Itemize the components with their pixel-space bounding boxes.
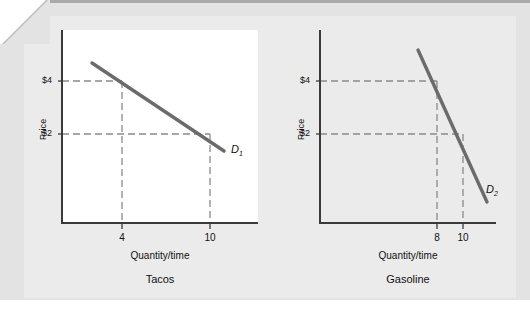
demand-curve-d1 bbox=[92, 63, 224, 151]
y-tick-label-4-right: $4 bbox=[300, 75, 310, 85]
x-tick-label-10-left: 10 bbox=[198, 232, 222, 243]
curve-label-d1-letter: D bbox=[231, 143, 239, 155]
plot-vector-layer bbox=[0, 0, 530, 318]
panel-caption-tacos: Tacos bbox=[100, 273, 220, 285]
x-tick-label-4-left: 4 bbox=[110, 232, 134, 243]
demand-curve-d2 bbox=[418, 50, 487, 202]
curve-label-d2-letter: D bbox=[486, 183, 494, 195]
y-axis-title-right: Price bbox=[296, 118, 306, 140]
y-axis-title-left: Price bbox=[38, 118, 48, 140]
x-axis-title-left: Quantity/time bbox=[100, 250, 220, 261]
panel-caption-gasoline: Gasoline bbox=[348, 273, 468, 285]
curve-label-d2: D2 bbox=[486, 183, 498, 197]
curve-label-d2-sub: 2 bbox=[494, 190, 498, 197]
curve-label-d1: D1 bbox=[231, 143, 243, 157]
x-tick-label-10-right: 10 bbox=[451, 232, 475, 243]
y-tick-label-4-left: $4 bbox=[42, 75, 52, 85]
x-axis-title-right: Quantity/time bbox=[348, 250, 468, 261]
curve-label-d1-sub: 1 bbox=[239, 150, 243, 157]
x-tick-label-8-right: 8 bbox=[425, 232, 449, 243]
figure-container: $4 $2 Price 4 10 Quantity/time Tacos D1 … bbox=[0, 0, 530, 318]
